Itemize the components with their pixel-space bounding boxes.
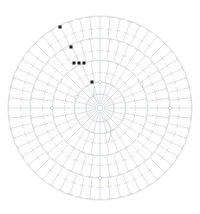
stitch-r3-17-crossbar (135, 150, 139, 154)
marker-square (83, 62, 86, 65)
stitch-r2-9-stem (126, 113, 146, 117)
stitch-r3-26-stem (63, 149, 74, 166)
stitch-r3-25-crossbar (74, 159, 79, 161)
stitch-r4-40-stem (11, 124, 31, 129)
stitch-r4-8-crossbar (160, 56, 163, 60)
stitch-r3-21-stem (107, 156, 110, 176)
stitch-r3-26-crossbar (67, 155, 72, 158)
stitch-r4-50-crossbar (48, 44, 52, 47)
stitch-r3-5-top-cap (143, 54, 148, 58)
stitch-r3-25-stem (71, 152, 79, 171)
stitch-r2-29-top-cap (71, 67, 76, 71)
stitch-r3-26-top-cap (60, 164, 65, 168)
stitch-r3-16-stem (137, 140, 152, 153)
stitch-r4-22-stem (144, 163, 157, 179)
stitch-r4-37-stem (23, 146, 40, 157)
stitch-r3-16-top-cap (150, 151, 154, 156)
stitch-r4-37-crossbar (31, 148, 34, 153)
stitch-r4-36-stem (29, 152, 45, 165)
stitch-r3-23-stem (90, 156, 93, 176)
stitch-r4-12-stem (169, 88, 189, 93)
stitch-r3-27-top-cap (52, 158, 57, 162)
stitch-r4-3-stem (123, 22, 130, 41)
marker-square (59, 26, 62, 29)
stitch-r2-2-stem (110, 64, 118, 83)
stitch-r3-28-stem (48, 140, 63, 153)
stitch-r4-11-stem (167, 78, 186, 85)
stitch-r4-23-stem (138, 168, 149, 185)
stitch-r3-6-stem (137, 63, 152, 76)
stitch-r4-48-crossbar (36, 56, 39, 60)
stitch-r2-13-top-cap (124, 145, 129, 149)
stitch-r4-8-stem (155, 51, 171, 64)
stitch-r4-52-stem (60, 26, 69, 44)
stitch-r4-51-crossbar (55, 39, 60, 42)
stitch-r3-37-top-cap (40, 68, 44, 73)
stitch-r4-27-stem (108, 178, 110, 198)
stitch-r4-22-crossbar (147, 168, 151, 171)
stitch-r2-18-stem (82, 133, 90, 152)
stitch-r3-7-top-cap (156, 68, 160, 73)
stitch-r4-45-stem (14, 78, 33, 85)
stitch-r4-48-top-cap (27, 49, 31, 54)
stitch-r2-15-stem (105, 134, 109, 154)
stitch-r4-46-stem (18, 68, 36, 77)
stitch-r3-28-top-cap (46, 151, 50, 156)
stitch-r4-23-top-cap (146, 183, 152, 186)
stitch-r3-2-stem (114, 42, 120, 62)
stitch-r2-6-stem (125, 90, 144, 98)
stitch-r3-5-stem (132, 56, 145, 71)
stitch-r2-1-stem (105, 62, 109, 82)
stitch-r2-10-stem (125, 118, 144, 126)
stitch-r4-22-top-cap (154, 177, 159, 181)
stitch-r3-40-stem (63, 50, 74, 67)
stitch-r4-29-crossbar (88, 187, 94, 188)
stitch-r3-13-stem (147, 122, 167, 128)
stitch-r3-37-crossbar (50, 75, 53, 80)
stitch-r3-7-stem (141, 71, 158, 82)
stitch-r1-17-stem (76, 110, 95, 115)
stitch-r3-19-crossbar (121, 159, 126, 161)
stitch-r1-11-stem (102, 114, 107, 133)
stitch-r3-14-crossbar (151, 129, 153, 134)
stitch-r3-38-stem (48, 63, 63, 76)
stitch-r2-17-stem (91, 134, 95, 154)
stitch-r4-19-top-cap (175, 154, 178, 160)
stitch-r4-17-stem (167, 131, 186, 138)
stitch-r3-38-crossbar (55, 68, 59, 72)
stitch-r4-32-stem (60, 172, 69, 190)
chain-node (168, 106, 171, 109)
stitch-r2-18-crossbar (84, 140, 89, 142)
stitch-r3-39-stem (55, 56, 68, 71)
stitch-r4-38-stem (18, 139, 36, 148)
stitch-r3-39-crossbar (60, 63, 64, 67)
stitch-r2-21-crossbar (69, 125, 72, 130)
stitch-r4-9-top-cap (175, 57, 178, 63)
stitch-r3-34-stem (32, 98, 52, 101)
stitch-r2-19-top-cap (71, 145, 76, 149)
stitch-r3-15-crossbar (147, 137, 150, 142)
stitch-r4-50-stem (43, 37, 56, 53)
stitch-r4-51-stem (51, 31, 62, 48)
chain-node (75, 95, 78, 98)
stitch-r3-4-top-cap (135, 48, 140, 52)
stitch-r4-1-stem (108, 17, 110, 37)
stitch-r2-2-crossbar (111, 74, 116, 76)
diagram-root (8, 16, 192, 200)
stitch-r3-8-crossbar (151, 82, 153, 87)
stitch-r4-6-crossbar (147, 44, 151, 47)
stitch-r4-33-crossbar (55, 174, 60, 177)
stitch-r4-7-stem (150, 44, 164, 58)
stitch-r3-30-crossbar (47, 129, 49, 134)
stitch-r2-11-top-cap (137, 132, 141, 137)
stitch-r3-15-top-cap (156, 143, 160, 148)
crochet-diagram (0, 0, 200, 214)
stitch-r4-43-stem (9, 98, 29, 100)
stitch-r3-37-stem (42, 71, 59, 82)
stitch-r3-41-stem (71, 45, 79, 64)
stitch-r4-20-top-cap (169, 162, 173, 167)
stitch-r4-35-stem (36, 158, 50, 172)
stitch-r4-32-crossbar (63, 178, 68, 180)
stitch-r3-15-stem (141, 134, 158, 145)
stitch-r4-29-stem (90, 178, 92, 198)
